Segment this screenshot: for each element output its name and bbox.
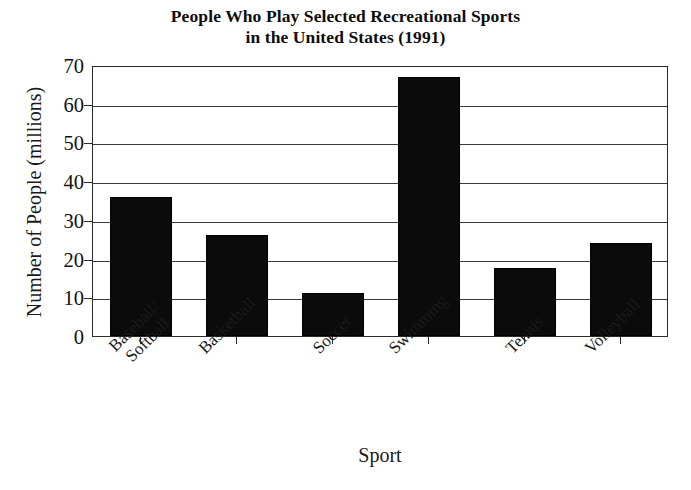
gridline <box>93 144 667 145</box>
gridline <box>93 222 667 223</box>
gridline <box>93 183 667 184</box>
bar <box>398 77 460 336</box>
x-axis-title: Sport <box>92 444 668 467</box>
gridline <box>93 299 667 300</box>
y-axis-tick-marks <box>0 66 100 337</box>
chart-title: People Who Play Selected Recreational Sp… <box>0 6 691 48</box>
plot-area <box>92 66 668 337</box>
chart-title-line-2: in the United States (1991) <box>0 27 691 48</box>
gridline <box>93 261 667 262</box>
chart-title-line-1: People Who Play Selected Recreational Sp… <box>0 6 691 27</box>
gridline <box>93 106 667 107</box>
bar-chart-figure: People Who Play Selected Recreational Sp… <box>0 0 691 490</box>
x-axis-tick-labels: Baseball/SoftballBasketballSoccerSwimmin… <box>92 340 668 440</box>
